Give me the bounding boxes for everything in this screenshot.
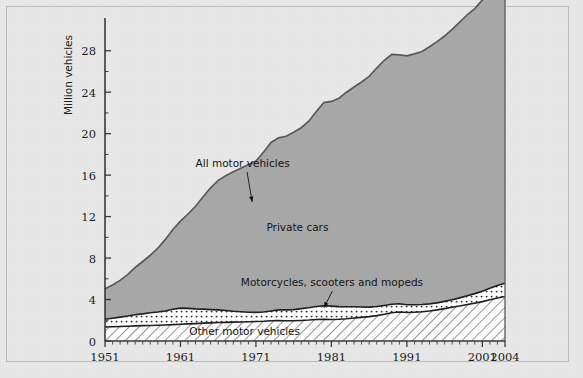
y-axis-label: Million vehicles	[62, 35, 74, 115]
annotation-label: Other motor vehicles	[189, 325, 300, 337]
annotation-label: Motorcycles, scooters and mopeds	[241, 276, 423, 288]
y-tick-label: 24	[81, 86, 96, 100]
x-tick-label: 1991	[392, 350, 421, 364]
x-tick-label: 2004	[490, 350, 519, 364]
x-tick-label: 1981	[317, 350, 346, 364]
y-tick-label: 8	[89, 252, 96, 266]
figure-container: 0481216202428195119611971198119912001200…	[0, 0, 583, 378]
y-tick-label: 4	[89, 293, 96, 307]
y-tick-label: 20	[81, 127, 96, 141]
area-private-cars	[105, 0, 505, 319]
annotation-label: Private cars	[266, 221, 328, 233]
area-chart: 0481216202428195119611971198119912001200…	[0, 0, 583, 378]
x-tick-label: 1961	[166, 350, 195, 364]
x-tick-label: 1951	[90, 350, 119, 364]
y-tick-label: 28	[81, 44, 96, 58]
annotation-label: All motor vehicles	[196, 157, 290, 169]
x-tick-label: 1971	[241, 350, 270, 364]
y-tick-label: 16	[81, 169, 96, 183]
y-tick-label: 12	[81, 210, 96, 224]
y-tick-label: 0	[89, 335, 96, 349]
